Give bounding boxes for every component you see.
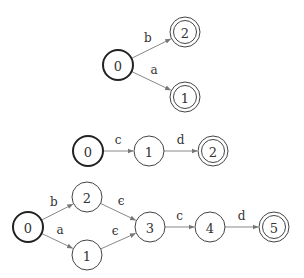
transition-label: d — [238, 209, 246, 223]
diagram-dfa-1: ba021 — [103, 17, 200, 112]
transition-0-2: b — [131, 31, 170, 58]
state-5-accepting: 5 — [259, 212, 289, 242]
transition-label: ϵ — [112, 224, 119, 238]
state-label: 0 — [84, 145, 92, 160]
transition-1-2: d — [164, 133, 197, 151]
diagram-dfa-2: cd012 — [73, 133, 228, 166]
transition-2-3: ϵ — [101, 194, 136, 220]
state-label: 2 — [83, 191, 91, 206]
transition-3-4: c — [165, 209, 194, 227]
state-2: 2 — [72, 182, 102, 212]
state-label: 0 — [24, 221, 32, 236]
transition-4-5: d — [225, 209, 258, 227]
transition-0-1: a — [132, 63, 171, 90]
transition-label: c — [176, 209, 183, 223]
state-0-start: 0 — [73, 136, 103, 166]
transition-label: b — [50, 195, 58, 209]
state-label: 1 — [83, 249, 91, 264]
state-label: 1 — [181, 91, 189, 106]
transition-label: c — [115, 133, 122, 147]
state-1-accepting: 1 — [170, 82, 200, 112]
state-2-accepting: 2 — [198, 136, 228, 166]
state-label: 3 — [146, 221, 154, 236]
state-label: 0 — [114, 59, 122, 74]
state-label: 4 — [206, 221, 214, 236]
transition-label: d — [177, 133, 185, 147]
state-label: 2 — [209, 145, 217, 160]
transition-0-2: b — [41, 195, 72, 220]
transition-1-3: ϵ — [101, 224, 136, 249]
state-2-accepting: 2 — [170, 17, 200, 47]
transition-label: a — [150, 63, 157, 77]
transition-0-1: a — [42, 223, 73, 248]
state-4: 4 — [195, 212, 225, 242]
diagram-nfa-3: baϵϵcd021345 — [13, 182, 289, 270]
state-3: 3 — [135, 212, 165, 242]
state-0-start: 0 — [13, 212, 43, 242]
state-label: 1 — [145, 145, 153, 160]
state-1: 1 — [134, 136, 164, 166]
transition-label: b — [144, 31, 152, 45]
automata-canvas: ba021cd012baϵϵcd021345 — [0, 0, 304, 278]
state-label: 5 — [270, 221, 278, 236]
transition-0-1: c — [103, 133, 133, 151]
state-label: 2 — [181, 26, 189, 41]
state-0-start: 0 — [103, 50, 133, 80]
state-1: 1 — [72, 240, 102, 270]
transition-label: a — [56, 223, 63, 237]
transition-label: ϵ — [118, 194, 125, 208]
